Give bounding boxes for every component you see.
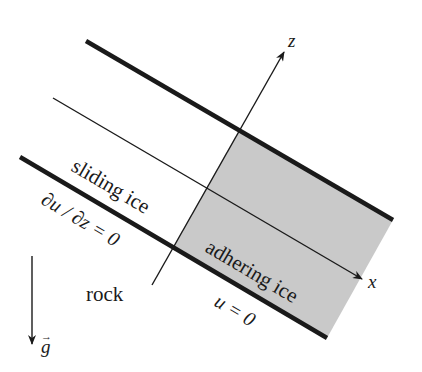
diagram-svg: z x sliding ice adhering ice ∂u / ∂z = 0…: [0, 0, 422, 372]
x-axis-label: x: [367, 271, 377, 292]
gravity-vector-mark: →: [41, 330, 52, 342]
z-axis-label: z: [287, 30, 296, 51]
ice-flow-diagram: z x sliding ice adhering ice ∂u / ∂z = 0…: [0, 0, 422, 372]
rock-label: rock: [86, 282, 124, 306]
adhering-ice-region: [173, 130, 393, 338]
